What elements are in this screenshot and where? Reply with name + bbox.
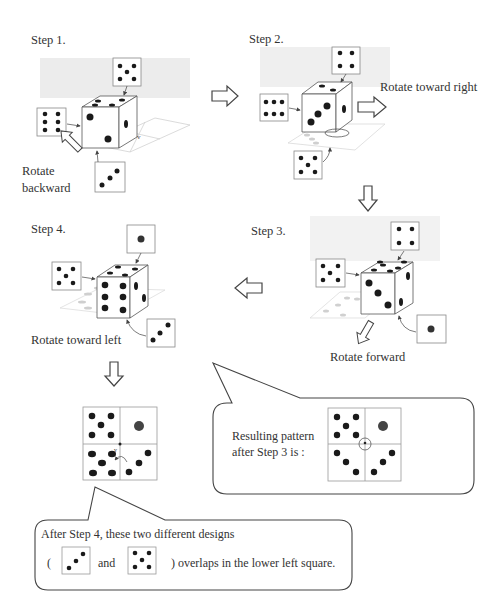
- callout-step3-line2: after Step 3 is :: [232, 444, 314, 460]
- svg-text:v: v: [114, 447, 117, 453]
- step2-title: Step 2.: [249, 32, 284, 47]
- step3-title: Step 3.: [251, 224, 286, 239]
- step4-title: Step 4.: [31, 222, 66, 237]
- svg-text:v: v: [137, 133, 141, 141]
- step3-action-label: Rotate forward: [330, 350, 405, 365]
- arrow-step4-to-final-icon: [105, 362, 123, 386]
- step3-top-face-box: [391, 222, 419, 250]
- arrow-step2-to-step3-icon: [359, 186, 377, 211]
- callout-step4-open-paren: (: [47, 555, 51, 571]
- arrow-step3-to-step4-icon: [235, 278, 262, 298]
- callout-step4-and: and: [98, 555, 115, 571]
- callout-step3-line1: Resulting pattern: [232, 428, 314, 444]
- final-pattern-grid: v: [83, 407, 157, 480]
- step2-left-face-box: [260, 94, 288, 121]
- step1-action-label: Rotate backward: [22, 163, 92, 197]
- callout-step3-text: Resulting pattern after Step 3 is :: [232, 428, 314, 460]
- step2-action-label: Rotate toward right: [380, 80, 477, 95]
- step1-title: Step 1.: [31, 33, 66, 48]
- callout-step4-line1: After Step 4, these two different design…: [41, 526, 234, 542]
- step1-action-text: Rotate backward: [22, 164, 71, 195]
- arrow-step1-to-step2-icon: [212, 86, 238, 106]
- callout-step4-line2-end: ) overlaps in the lower left square.: [171, 555, 335, 571]
- step4-cube-group: [52, 225, 175, 347]
- step2-top-face-box: [332, 47, 360, 74]
- rotate-forward-arrow-icon: [352, 319, 377, 348]
- step2-cube-group: [260, 47, 390, 179]
- step1-cube-front: [82, 107, 119, 148]
- step2-background-band: [260, 47, 390, 87]
- rotate-right-arrow-icon: [358, 97, 386, 117]
- step4-action-label: Rotate toward left: [31, 333, 121, 348]
- step3-background-band: [310, 216, 440, 261]
- step3-cube-group: [310, 216, 446, 347]
